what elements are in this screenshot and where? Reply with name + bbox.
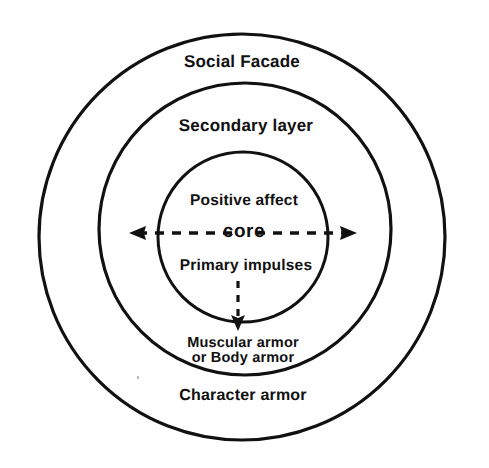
label-muscular-armor-line1: Muscular armor bbox=[187, 335, 299, 351]
label-social-facade: Social Facade bbox=[184, 53, 300, 71]
label-positive-affect: Positive affect bbox=[190, 193, 298, 209]
label-muscular-armor: Muscular armor or Body armor bbox=[187, 336, 299, 366]
label-muscular-armor-line2: or Body armor bbox=[187, 351, 299, 366]
arrow-right-icon bbox=[256, 226, 357, 240]
label-secondary-layer: Secondary layer bbox=[179, 117, 313, 135]
label-primary-impulses: Primary impulses bbox=[180, 258, 312, 274]
label-core: core bbox=[223, 222, 266, 242]
diagram-canvas: Social Facade Secondary layer Positive a… bbox=[0, 0, 489, 468]
arrow-down-icon bbox=[231, 281, 245, 331]
arrow-left-icon bbox=[129, 226, 232, 240]
label-character-armor: Character armor bbox=[179, 388, 307, 405]
scan-artifact-speck bbox=[137, 376, 139, 379]
